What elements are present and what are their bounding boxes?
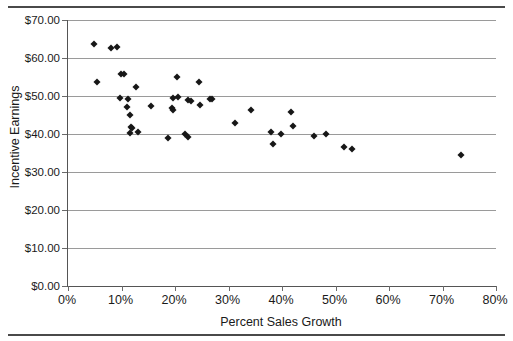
data-point	[269, 141, 276, 148]
data-point	[277, 131, 284, 138]
data-point	[188, 98, 195, 105]
data-point	[323, 130, 330, 137]
data-point	[147, 103, 154, 110]
y-tick-label: $60.00	[2, 52, 60, 64]
y-tick-label: $20.00	[2, 204, 60, 216]
data-point	[127, 111, 134, 118]
data-point	[348, 145, 355, 152]
data-point	[195, 79, 202, 86]
data-point	[247, 107, 254, 114]
data-point	[457, 152, 464, 159]
data-point	[133, 83, 140, 90]
x-tick-label: 60%	[358, 293, 418, 307]
data-point	[114, 44, 121, 51]
gridline	[68, 20, 496, 21]
x-tick-label: 50%	[305, 293, 365, 307]
data-point	[164, 135, 171, 142]
data-point	[231, 119, 238, 126]
data-point	[91, 40, 98, 47]
data-point	[340, 143, 347, 150]
gridline	[68, 248, 496, 249]
plot-area	[67, 20, 496, 287]
y-tick-label: $0.00	[2, 280, 60, 292]
x-tick-label: 40%	[251, 293, 311, 307]
x-tick-label: 80%	[465, 293, 513, 307]
data-point	[290, 122, 297, 129]
x-axis-tick-labels: 0%10%20%30%40%50%60%70%80%	[67, 286, 495, 312]
data-point	[174, 73, 181, 80]
gridline	[68, 96, 496, 97]
scatter-chart-figure: Incentive Earnings $0.00$10.00$20.00$30.…	[0, 0, 513, 341]
data-point	[175, 93, 182, 100]
gridline	[68, 58, 496, 59]
gridline	[68, 172, 496, 173]
x-axis-title: Percent Sales Growth	[67, 315, 495, 329]
y-tick-label: $30.00	[2, 166, 60, 178]
data-point	[196, 102, 203, 109]
x-tick-label: 10%	[91, 293, 151, 307]
y-tick-label: $10.00	[2, 242, 60, 254]
gridline	[68, 210, 496, 211]
x-tick-label: 30%	[198, 293, 258, 307]
data-point	[93, 78, 100, 85]
x-tick-label: 20%	[144, 293, 204, 307]
x-tick-label: 0%	[37, 293, 97, 307]
x-tick-mark	[496, 286, 497, 291]
data-point	[287, 109, 294, 116]
data-point	[123, 104, 130, 111]
y-tick-label: $70.00	[2, 14, 60, 26]
y-tick-label: $40.00	[2, 128, 60, 140]
y-tick-label: $50.00	[2, 90, 60, 102]
data-point	[124, 96, 131, 103]
x-tick-label: 70%	[412, 293, 472, 307]
